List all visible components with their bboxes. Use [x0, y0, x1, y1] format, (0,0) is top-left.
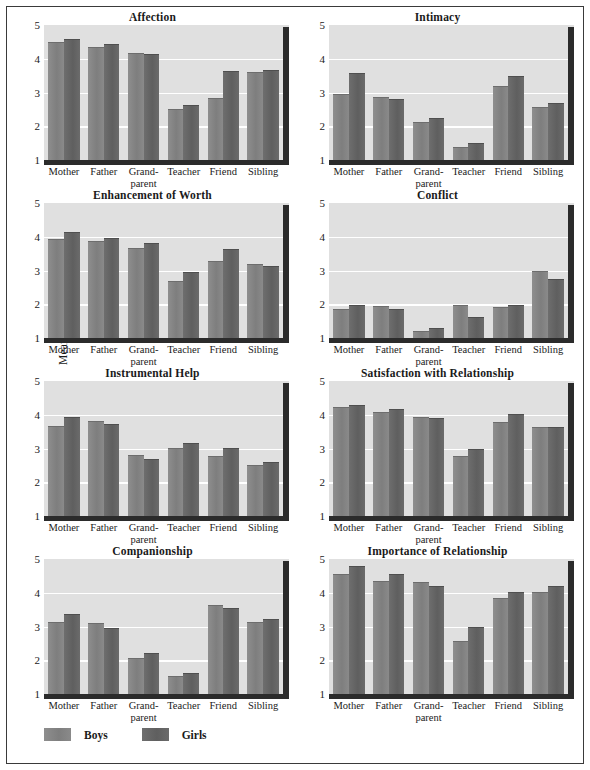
bar-girls	[144, 243, 160, 338]
bar-group	[167, 381, 200, 516]
panel-title: Conflict	[295, 188, 580, 204]
bar-group	[207, 203, 240, 338]
x-tick-label: Friend	[492, 522, 525, 545]
y-tick-label: 3	[309, 443, 325, 454]
bar-girls	[389, 409, 405, 516]
bar-group	[127, 203, 160, 338]
x-tick-label-line: Sibling	[532, 522, 565, 534]
plot-area: 54321MotherFatherGrand-parentTeacherFrie…	[10, 203, 295, 363]
x-tick-label-line: Mother	[333, 344, 366, 356]
bar-boys	[128, 455, 144, 516]
y-tick-label: 2	[24, 121, 40, 132]
x-tick-label-line: Father	[87, 166, 120, 178]
y-tick-label: 3	[24, 443, 40, 454]
bar-girls	[548, 103, 564, 160]
bar-group	[87, 559, 120, 694]
x-tick-label-line: Father	[87, 700, 120, 712]
bar-boys	[413, 331, 429, 338]
bar-boys	[373, 306, 389, 338]
x-tick-label: Friend	[492, 166, 525, 189]
bar-group	[207, 559, 240, 694]
bar-girls	[389, 99, 405, 160]
x-tick-label: Sibling	[532, 522, 565, 545]
bar-group	[412, 559, 445, 694]
bar-group	[532, 559, 565, 694]
panel-title: Enhancement of Worth	[10, 188, 295, 204]
bar-boys	[128, 53, 144, 160]
x-tick-label-line: Mother	[333, 522, 366, 534]
x-tick-label: Grand-parent	[412, 522, 445, 545]
bar-group	[207, 381, 240, 516]
bar-group	[127, 25, 160, 160]
bar-group	[372, 203, 405, 338]
x-tick-label: Teacher	[167, 344, 200, 367]
plot-base-shadow	[329, 516, 574, 521]
y-tick-label: 1	[309, 333, 325, 344]
bar-boys	[373, 412, 389, 516]
x-tick-label: Grand-parent	[127, 166, 160, 189]
x-tick-label: Teacher	[167, 700, 200, 723]
bar-boys	[453, 147, 469, 161]
plot-right-shadow	[568, 561, 574, 699]
bar-groups	[44, 203, 283, 338]
bar-boys	[333, 94, 349, 160]
y-tick-label: 5	[24, 554, 40, 565]
y-tick-label: 4	[309, 53, 325, 64]
bar-group	[48, 381, 81, 516]
bar-girls	[349, 405, 365, 516]
x-tick-label: Friend	[207, 522, 240, 545]
y-tick-label: 3	[24, 87, 40, 98]
bar-girls	[429, 418, 445, 516]
bar-group	[127, 381, 160, 516]
plot-right-shadow	[283, 205, 289, 343]
bar-groups	[329, 25, 568, 160]
x-tick-label: Sibling	[247, 166, 280, 189]
plot-base-shadow	[44, 694, 289, 699]
bar-boys	[168, 448, 184, 517]
x-tick-label: Grand-parent	[127, 522, 160, 545]
bar-group	[48, 559, 81, 694]
bar-girls	[468, 143, 484, 160]
x-tick-label-line: Grand-	[412, 344, 445, 356]
plot-right-shadow	[568, 383, 574, 521]
bar-group	[492, 559, 525, 694]
bar-group	[333, 25, 366, 160]
bar-group	[127, 559, 160, 694]
bar-boys	[88, 421, 104, 516]
bar-group	[452, 203, 485, 338]
bar-girls	[508, 76, 524, 160]
plot-area: 54321MotherFatherGrand-parentTeacherFrie…	[295, 25, 580, 185]
bar-boys	[48, 622, 64, 694]
y-tick-label: 1	[24, 155, 40, 166]
x-tick-label-line: Mother	[48, 700, 81, 712]
x-tick-label-line: Teacher	[167, 344, 200, 356]
bar-girls	[508, 305, 524, 338]
x-tick-label-line: Mother	[48, 344, 81, 356]
x-tick-label: Teacher	[452, 166, 485, 189]
bar-group	[247, 203, 280, 338]
y-tick-label: 4	[309, 231, 325, 242]
plot-box	[329, 559, 574, 699]
x-tick-label-line: Mother	[333, 700, 366, 712]
bar-boys	[48, 42, 64, 160]
bar-boys	[413, 582, 429, 694]
y-tick-label: 4	[309, 409, 325, 420]
x-tick-label: Mother	[48, 166, 81, 189]
bar-girls	[468, 627, 484, 694]
y-axis: 54321	[309, 203, 325, 343]
bar-group	[532, 381, 565, 516]
bar-groups	[329, 381, 568, 516]
x-tick-label-line: Sibling	[247, 700, 280, 712]
chart-panel: Instrumental Help54321MotherFatherGrand-…	[10, 366, 295, 544]
x-tick-label: Friend	[207, 344, 240, 367]
plot-box	[44, 25, 289, 165]
x-tick-label-line: Teacher	[167, 700, 200, 712]
x-tick-label: Sibling	[247, 344, 280, 367]
figure-root: Mean rating Affection54321MotherFatherGr…	[0, 0, 590, 770]
x-tick-label-line: Mother	[48, 522, 81, 534]
x-tick-label-line: Sibling	[532, 344, 565, 356]
x-tick-label-line: Grand-	[127, 166, 160, 178]
bar-group	[452, 381, 485, 516]
bar-girls	[468, 449, 484, 517]
legend-items: BoysGirls	[44, 728, 207, 741]
